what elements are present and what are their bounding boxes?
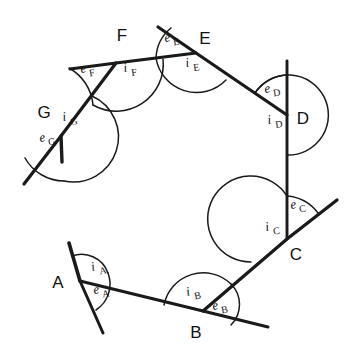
vertex-label-c: C (290, 245, 302, 264)
vertex-label-e: E (199, 29, 210, 48)
vertex-label-d: D (297, 109, 309, 128)
interior-angle-g-sub: G (69, 115, 78, 127)
canvas-background (0, 0, 353, 352)
heptagon-angle-diagram: A B C D E F G i A i B i C i D i E (0, 0, 353, 352)
vertex-label-g: G (37, 103, 50, 122)
side-ga-stub-top (61, 136, 62, 162)
vertex-label-a: A (52, 273, 64, 292)
vertex-label-b: B (190, 323, 201, 342)
diagram-canvas: A B C D E F G i A i B i C i D i E (0, 0, 353, 352)
interior-angle-d-sub: D (274, 118, 283, 130)
vertex-label-f: F (117, 26, 127, 45)
